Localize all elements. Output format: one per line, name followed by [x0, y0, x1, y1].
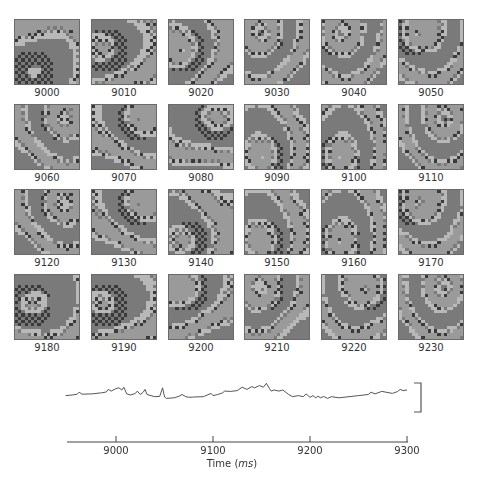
axis-tick-label: 9100 — [193, 445, 233, 456]
axis-tick-label: 9000 — [96, 445, 136, 456]
axis-tick-label: 9200 — [290, 445, 330, 456]
axis-ticks — [116, 436, 407, 442]
axis-title: Time (ms) — [192, 458, 272, 469]
scale-bar-bracket — [414, 383, 421, 412]
signal-trace — [66, 383, 407, 398]
trace-and-axis — [0, 0, 480, 488]
axis-tick-label: 9300 — [387, 445, 427, 456]
